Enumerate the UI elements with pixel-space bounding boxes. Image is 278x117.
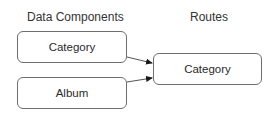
edge-category-to-route — [127, 57, 152, 63]
edges-layer — [0, 0, 278, 117]
edge-album-to-route — [127, 78, 152, 82]
